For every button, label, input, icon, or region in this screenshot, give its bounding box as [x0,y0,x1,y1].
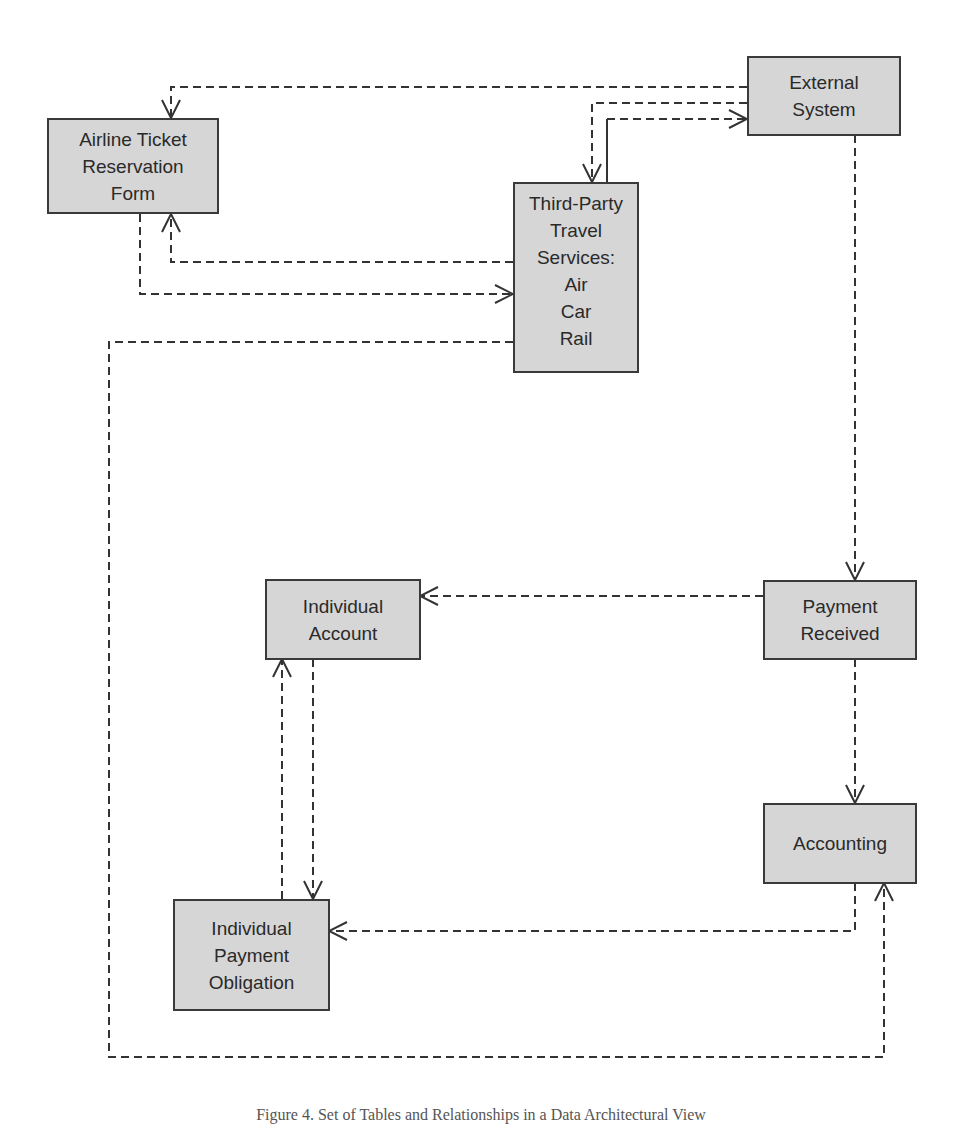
node-label-line: Airline Ticket [79,126,187,153]
node-label-line: Received [800,620,879,647]
node-third-party-travel-services[interactable]: Third-Party Travel Services: Air Car Rai… [513,182,639,373]
node-label-line: Third-Party [529,190,623,217]
node-label-line: Account [309,620,378,647]
node-label-line: Car [561,298,592,325]
edge-external-to-thirdparty [592,103,747,182]
edge-external-to-airline [171,87,747,118]
node-label-line: Travel [550,217,602,244]
node-label-line: Rail [560,325,593,352]
node-label-line: Accounting [793,830,887,857]
node-individual-payment-obligation[interactable]: Individual Payment Obligation [173,899,330,1011]
node-individual-account[interactable]: Individual Account [265,579,421,660]
edge-accounting-to-obligation [329,883,855,931]
node-payment-received[interactable]: Payment Received [763,580,917,660]
node-accounting[interactable]: Accounting [763,803,917,884]
node-label-line: Obligation [209,969,295,996]
node-label-line: Payment [803,593,878,620]
node-label-line: Air [564,271,587,298]
node-external-system[interactable]: External System [747,56,901,136]
node-label-line: Form [111,180,155,207]
node-label-line: External [789,69,859,96]
node-label-line: System [792,96,855,123]
figure-caption: Figure 4. Set of Tables and Relationship… [0,1106,962,1124]
node-airline-ticket-reservation-form[interactable]: Airline Ticket Reservation Form [47,118,219,214]
edge-airline-to-thirdparty [140,214,513,294]
node-label-line: Individual [303,593,383,620]
node-label-line: Payment [214,942,289,969]
node-label-line: Reservation [82,153,183,180]
node-label-line: Services: [537,244,615,271]
node-label-line: Individual [211,915,291,942]
edge-thirdparty-to-airline [171,214,513,262]
